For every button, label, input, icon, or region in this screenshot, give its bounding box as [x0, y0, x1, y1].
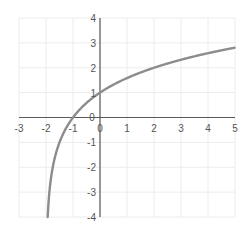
y-tick-label: -1 [87, 137, 96, 148]
y-tick-label: 3 [90, 38, 96, 49]
y-tick-label: -3 [87, 187, 96, 198]
x-tick-label: 4 [205, 123, 211, 134]
y-tick-label: 1 [90, 88, 96, 99]
x-tick-label: 2 [151, 123, 157, 134]
x-tick-label: -2 [42, 123, 51, 134]
y-tick-label: 2 [90, 63, 96, 74]
x-tick-label: 3 [178, 123, 184, 134]
x-tick-labels: -3-2-1012345 [15, 123, 239, 134]
y-tick-label: -2 [87, 162, 96, 173]
y-tick-label: -4 [87, 212, 96, 223]
y-tick-label: 0 [89, 112, 95, 123]
x-tick-label: -3 [15, 123, 24, 134]
x-tick-label: -1 [69, 123, 78, 134]
x-tick-label: 0 [97, 123, 103, 134]
x-tick-label: 1 [124, 123, 130, 134]
y-tick-label: 4 [90, 13, 96, 24]
x-tick-label: 5 [232, 123, 238, 134]
function-plot: -3-2-1012345 43210-1-2-3-4 [0, 0, 252, 231]
